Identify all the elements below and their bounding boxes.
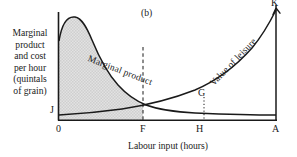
y-axis-caption-line-4: per hour: [4, 62, 56, 74]
x-tick-h: H: [196, 124, 203, 134]
x-axis-caption: Labour input (hours): [58, 140, 278, 151]
y-axis-caption-line-3: and cost: [4, 50, 56, 62]
point-label-j: J: [50, 105, 54, 115]
panel-label: (b): [141, 8, 152, 18]
x-tick-a: A: [272, 124, 279, 134]
point-label-k: K: [271, 0, 278, 8]
x-tick-f: F: [140, 124, 146, 134]
y-axis-caption-line-1: Marginal: [4, 27, 56, 39]
y-axis-caption-line-6: of grain): [4, 85, 56, 97]
point-label-g: G: [198, 88, 205, 98]
y-axis-caption: Marginal product and cost per hour (quin…: [4, 27, 56, 97]
y-axis-caption-line-5: (quintals: [4, 73, 56, 85]
x-tick-origin: 0: [56, 124, 61, 134]
figure-panel-b: Marginal product and cost per hour (quin…: [0, 0, 297, 157]
y-axis-caption-line-2: product: [4, 39, 56, 51]
